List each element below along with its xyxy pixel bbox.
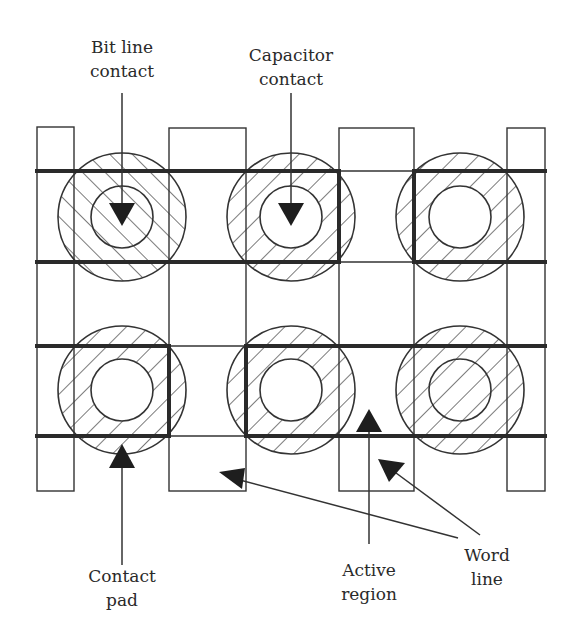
capacitor-contact-label-line1: Capacitor [249,45,334,65]
bit-line-contact-label-line1: Bit line [91,37,153,57]
arrowhead-upleft-icon [378,459,405,482]
bit-line-contact-label-line2: contact [90,61,154,81]
arrowhead-up-icon [356,409,382,432]
active-region-label-line1: Active [341,560,396,580]
contact-pad-label-line2: pad [106,590,138,610]
dram-layout-diagram: Bit line contact Capacitor contact Conta… [0,0,572,632]
arrowhead-left-icon [219,468,245,489]
contact-pad-label-line1: Contact [88,566,156,586]
active-region-label-line2: region [341,584,397,604]
word-line-label-line2: line [471,569,503,589]
labels: Bit line contact Capacitor contact Conta… [88,37,510,610]
word-line-label-line1: Word [464,545,510,565]
capacitor-contact-label-line2: contact [259,69,323,89]
